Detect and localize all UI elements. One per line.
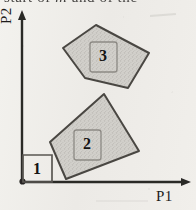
y-axis-arrowhead	[18, 10, 26, 20]
region-3-polygon[interactable]	[63, 25, 149, 88]
y-axis-label: P2	[0, 7, 15, 24]
region-2-shape[interactable]	[50, 94, 139, 179]
x-axis-arrowhead	[181, 178, 191, 186]
figure-canvas: start of m and of the	[0, 0, 196, 210]
plot-graphics	[0, 0, 196, 210]
x-axis-label: P1	[156, 188, 173, 205]
region-3-shape[interactable]	[63, 25, 149, 88]
region-1-shape[interactable]	[23, 155, 52, 182]
region-2-polygon[interactable]	[50, 94, 139, 179]
region-1-polygon[interactable]	[23, 155, 52, 182]
